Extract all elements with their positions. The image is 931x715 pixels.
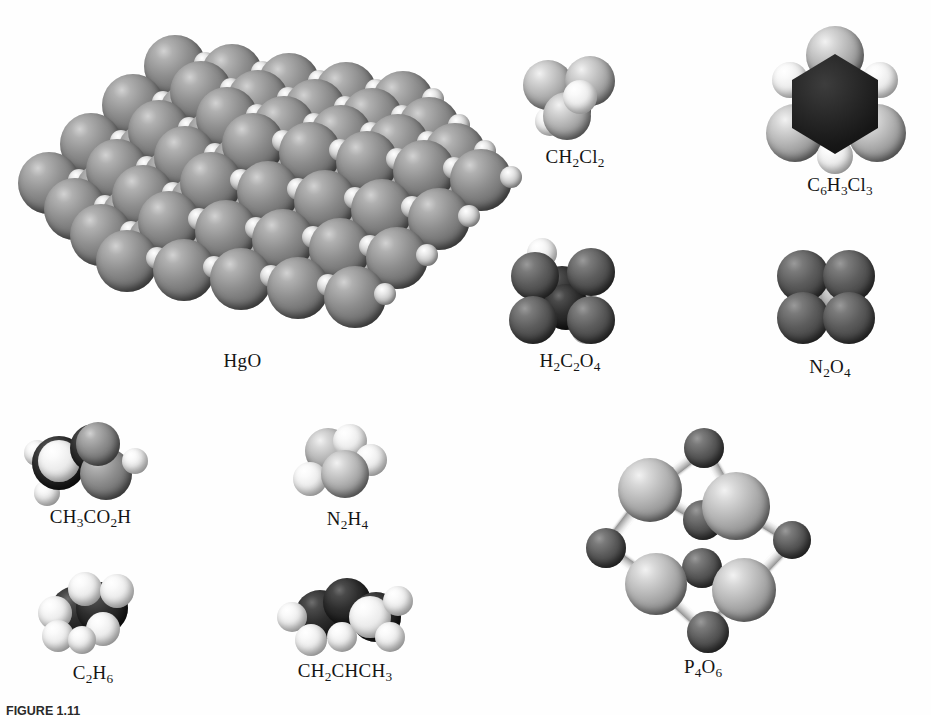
atom-hydrogen [383,586,413,616]
atom-phosphorus [625,553,687,615]
atom-oxygen [823,292,875,344]
molecule-label-p4o6: P4O6 [578,656,828,681]
atom-oxygen [586,528,626,568]
molecule-p4o6: P4O6 [578,428,828,690]
atom-oxygen [374,283,396,305]
caption-prefix: FIGURE [6,704,53,715]
molecule-label-n2o4: N2O4 [765,356,895,381]
atom-oxygen [777,292,829,344]
atom-hydrogen [375,622,405,652]
atom-oxygen [684,428,724,468]
atom-oxygen [567,296,615,344]
atom-oxygen [567,248,615,296]
atom-oxygen [687,611,729,653]
molecule-n2h4: N2H4 [285,422,410,540]
molecule-ch2cl2: CH2Cl2 [515,48,635,173]
atom-hydrogen [100,574,134,608]
molecule-label-hgo: HgO [55,350,430,372]
atom-phosphorus [618,458,682,522]
atom-hydrogen [68,572,102,606]
atom-phosphorus [712,558,776,622]
atom-oxygen [458,205,480,227]
figure-plate: HgO CH2Cl2 C6H3Cl3 [0,0,931,715]
molecule-label-ch2chch3: CH2CHCH3 [265,660,425,685]
caption-number: 1.11 [56,704,80,715]
atom-phosphorus [702,472,770,540]
molecule-hgo: HgO [55,38,430,383]
hgo-crystal-lattice [55,38,430,383]
molecule-label-c2h6: C2H6 [28,662,158,687]
molecule-h2c2o4: H2C2O4 [505,238,635,383]
atom-oxygen [509,296,557,344]
figure-caption: FIGURE 1.11 [6,703,926,715]
atom-hydrogen [122,448,148,474]
atom-oxygen [76,422,120,466]
molecule-label-c6h3cl3: C6H3Cl3 [760,174,920,199]
molecule-ch3co2h: CH3CO2H [18,418,163,538]
molecule-c2h6: C2H6 [28,572,158,692]
molecule-label-n2h4: N2H4 [285,508,410,533]
atom-hydrogen [563,80,597,114]
molecule-ch2chch3: CH2CHCH3 [265,568,425,690]
molecule-label-ch2cl2: CH2Cl2 [515,146,635,171]
atom-oxygen [511,252,559,300]
molecule-n2o4: N2O4 [765,250,895,390]
atom-nitrogen [321,450,369,498]
atom-hydrogen [68,626,96,654]
atom-oxygen [773,521,811,559]
molecule-c6h3cl3: C6H3Cl3 [760,22,920,207]
molecule-label-h2c2o4: H2C2O4 [505,350,635,375]
molecule-label-ch3co2h: CH3CO2H [18,506,163,531]
atom-hydrogen [295,624,327,656]
atom-oxygen [416,244,438,266]
